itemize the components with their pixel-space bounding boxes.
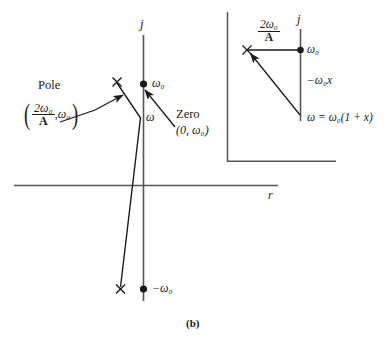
pole-coord-numerator: 2ω₀ [32, 102, 55, 115]
pole-coord-open-paren: ( [24, 100, 30, 129]
inset-offset-label: −ω₀x [307, 75, 332, 87]
omega-label: ω [146, 111, 154, 123]
pole-label: Pole [38, 79, 60, 92]
upper-zero-dot-marker [140, 80, 147, 87]
pole-coordinate-label: ( 2ω₀ A , ω₀ ) [22, 100, 80, 129]
zero-label: Zero [176, 108, 200, 121]
pole-coord-denominator: A [32, 115, 55, 127]
main-imaginary-axis-label: j [140, 17, 144, 30]
main-real-axis-label: r [268, 189, 273, 201]
inset-omega-zero-label: ω₀ [307, 44, 319, 56]
inset-frame [228, 12, 337, 162]
figure-pole-zero-diagram: j r Pole ( 2ω₀ A , ω₀ ) Zero (0, ω₀) ω₀ … [0, 0, 386, 340]
inset-distance-denominator: A [258, 32, 280, 44]
upper-pole-cross-marker [113, 78, 122, 87]
lower-zero-dot-marker [140, 285, 147, 292]
omega-zero-label: ω₀ [152, 77, 165, 89]
inset-zero-dot-marker [297, 47, 304, 54]
pole-coord-imag-part: ω₀ [58, 108, 71, 120]
negative-omega-zero-label: −ω₀ [152, 282, 173, 294]
inset-distance-numerator: 2ω₀ [258, 19, 280, 32]
figure-caption: (b) [186, 317, 199, 329]
diagram-vector-layer [0, 0, 386, 340]
inset-diagonal-vector [251, 54, 301, 116]
inset-distance-label: 2ω₀ A [258, 19, 280, 43]
inset-distance-fraction: 2ω₀ A [258, 19, 280, 43]
inset-omega-expression-label: ω = ω₀(1 + x) [307, 112, 373, 124]
pole-coord-fraction: 2ω₀ A [32, 102, 55, 127]
zero-coordinate-label: (0, ω₀) [176, 124, 209, 136]
pole-coord-close-paren: ) [72, 100, 78, 129]
inset-imaginary-axis-label: j [297, 13, 300, 26]
